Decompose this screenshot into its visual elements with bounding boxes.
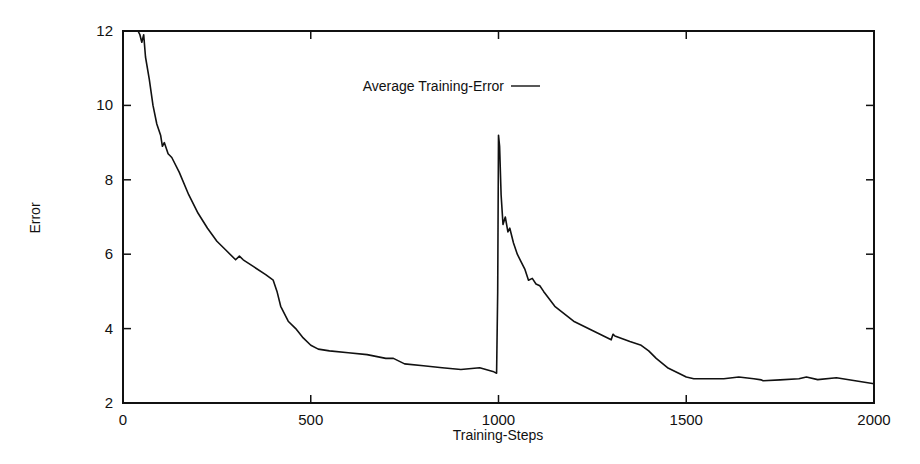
y-axis-title: Error xyxy=(27,202,43,233)
x-tick-label: 500 xyxy=(298,411,323,428)
x-axis-title: Training-Steps xyxy=(453,427,544,443)
y-tick-label: 4 xyxy=(105,320,113,337)
y-tick-label: 12 xyxy=(96,22,113,39)
legend: Average Training-Error xyxy=(363,78,540,94)
x-tick-label: 2000 xyxy=(857,411,890,428)
y-tick-label: 10 xyxy=(96,96,113,113)
x-tick-label: 0 xyxy=(119,411,127,428)
line-chart: 24681012 0500100015002000 Average Traini… xyxy=(0,0,920,464)
y-tick-label: 2 xyxy=(105,394,113,411)
y-tick-label: 8 xyxy=(105,171,113,188)
y-tick-label: 6 xyxy=(105,245,113,262)
x-tick-label: 1500 xyxy=(670,411,703,428)
x-axis: 0500100015002000 xyxy=(119,31,891,428)
legend-label: Average Training-Error xyxy=(363,78,505,94)
average-training-error-line xyxy=(138,31,874,384)
x-tick-label: 1000 xyxy=(482,411,515,428)
